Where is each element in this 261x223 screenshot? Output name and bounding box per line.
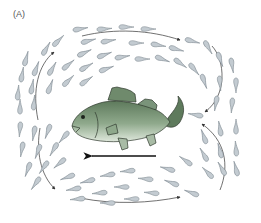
anal-fin: [146, 134, 156, 146]
particles-left: [15, 34, 70, 191]
vortex-diagram: [0, 0, 261, 223]
dorsal-fin-front: [108, 87, 136, 102]
fish-eye: [81, 115, 85, 119]
fish: [72, 87, 184, 150]
flow-arrow-top: [82, 31, 180, 40]
pelvic-fin: [118, 138, 128, 150]
particles-right: [188, 40, 240, 180]
particles-bottom: [60, 155, 200, 206]
particles-top: [61, 25, 201, 88]
